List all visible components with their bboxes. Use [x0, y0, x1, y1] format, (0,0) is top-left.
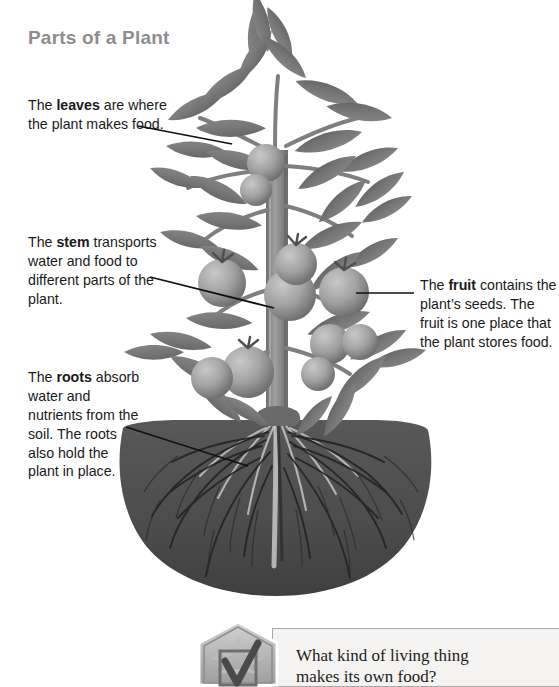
checkmark-badge-icon [192, 621, 284, 687]
callout-stem: The stem transports water and food to di… [28, 233, 188, 309]
callout-roots-prefix: The [28, 369, 56, 385]
callout-roots-suffix: absorb water and nutrients from the soil… [28, 369, 139, 479]
callout-roots-term: roots [56, 369, 91, 385]
question-text: What kind of living thing makes its own … [296, 645, 546, 687]
callout-stem-term: stem [56, 234, 89, 250]
callout-leaves: The leaves are where the plant makes foo… [28, 96, 178, 134]
callout-stem-prefix: The [28, 234, 56, 250]
callout-fruit-prefix: The [420, 277, 448, 293]
question-line-1: What kind of living thing [296, 645, 546, 666]
question-line-2: makes its own food? [296, 666, 546, 687]
callout-fruit-term: fruit [448, 277, 476, 293]
callout-roots: The roots absorb water and nutrients fro… [28, 368, 140, 481]
callout-fruit: The fruit contains the plant’s seeds. Th… [420, 276, 559, 352]
callout-leaves-prefix: The [28, 97, 56, 113]
plant-diagram-page: Parts of a Plant The leaves are where th… [0, 0, 559, 687]
leader-line-roots [126, 427, 248, 466]
callout-leaves-term: leaves [56, 97, 99, 113]
